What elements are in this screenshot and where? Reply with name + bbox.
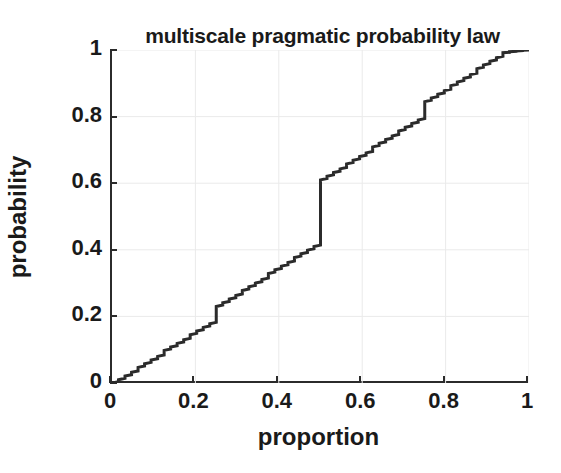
- y-tick-label-text: 0.8: [71, 102, 102, 128]
- x-tick-label-text: 0.8: [428, 388, 459, 414]
- staircase-curve: [112, 50, 529, 383]
- x-tick-mark: [192, 376, 194, 383]
- x-tick-label-text: 0: [104, 388, 116, 414]
- x-tick-mark: [359, 376, 361, 383]
- y-tick-label-text: 1: [90, 35, 102, 61]
- plot-area: [110, 50, 527, 383]
- chart-figure: multiscale pragmatic probability law 00.…: [0, 0, 561, 473]
- y-tick-mark: [110, 315, 117, 317]
- chart-title: multiscale pragmatic probability law: [110, 24, 535, 48]
- y-tick-mark: [110, 249, 117, 251]
- staircase-plot-svg: [112, 50, 529, 383]
- y-axis-label: probability: [4, 155, 32, 278]
- y-tick-mark: [110, 49, 117, 51]
- x-tick-label-text: 0.2: [178, 388, 209, 414]
- x-tick-label-text: 0.4: [262, 388, 293, 414]
- x-tick-mark: [109, 376, 111, 383]
- x-tick-mark: [526, 376, 528, 383]
- y-tick-mark: [110, 116, 117, 118]
- x-tick-label-text: 1: [521, 388, 533, 414]
- x-tick-mark: [443, 376, 445, 383]
- y-tick-mark: [110, 382, 117, 384]
- y-tick-label-text: 0.4: [71, 235, 102, 261]
- y-tick-label-text: 0: [90, 368, 102, 394]
- y-tick-mark: [110, 182, 117, 184]
- x-axis-label: proportion: [110, 423, 527, 451]
- y-axis-label-wrap: probability: [0, 50, 36, 383]
- x-tick-label-text: 0.6: [345, 388, 376, 414]
- y-tick-label-text: 0.2: [71, 301, 102, 327]
- y-tick-label-text: 0.6: [71, 168, 102, 194]
- x-tick-mark: [276, 376, 278, 383]
